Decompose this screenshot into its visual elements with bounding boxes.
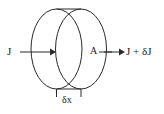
current-density-out-label: J + δJ [126,46,151,57]
incoming-flux-arrow [20,49,56,56]
left-face-ellipse [31,9,82,89]
thickness-label: δx [62,95,72,105]
cylinder-flux-svg [0,0,164,114]
current-density-in-label: J [7,46,11,57]
physics-diagram-figure: J A J + δJ δx [0,0,164,114]
right-face-ellipse [56,9,107,89]
cross-section-area-label: A [90,46,97,56]
